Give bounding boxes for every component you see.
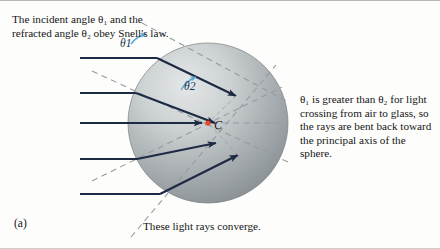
angle-comparison-note: θ₁ is greater than θ₂ for light crossing… <box>300 93 434 161</box>
center-point-label: C <box>214 118 222 133</box>
converging-rays-note: These light rays converge. <box>143 220 293 234</box>
theta2-label: θ2 <box>184 80 195 92</box>
center-point-c-dot <box>205 120 210 125</box>
optics-figure-panel-a: The incident angle θ₁ and the refracted … <box>0 0 440 249</box>
incident-angle-note: The incident angle θ₁ and the refracted … <box>12 13 172 40</box>
theta1-label: θ1 <box>120 37 131 49</box>
panel-label: (a) <box>14 217 27 231</box>
